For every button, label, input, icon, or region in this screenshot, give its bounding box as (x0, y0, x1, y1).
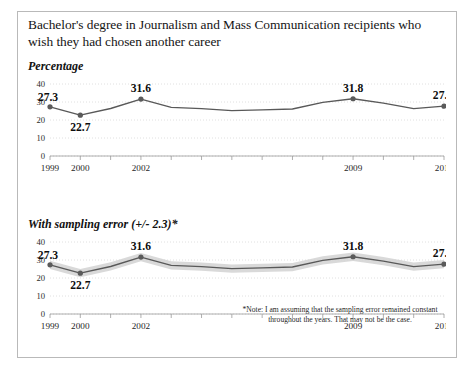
x-axis-tick-label: 2000 (71, 163, 90, 173)
data-point-marker (350, 254, 355, 259)
y-axis-tick-label: 40 (36, 237, 45, 247)
chart-page: Bachelor's degree in Journalism and Mass… (0, 0, 475, 379)
data-point-label: 27.7 (433, 89, 446, 102)
data-point-marker (47, 262, 52, 267)
y-axis-tick-label: 10 (36, 133, 45, 143)
x-axis-tick-label: 2012 (435, 163, 446, 173)
x-axis-tick-label: 2009 (344, 163, 363, 173)
x-axis-tick-label: 2002 (132, 163, 151, 173)
x-axis-tick-label: 2000 (71, 321, 90, 331)
data-point-label: 27.3 (38, 249, 58, 262)
x-axis-tick-label: 1999 (41, 163, 60, 173)
data-point-marker (441, 104, 446, 109)
data-point-label: 31.6 (131, 240, 151, 253)
data-point-label: 31.8 (343, 240, 363, 253)
x-axis-tick-label: 2002 (132, 321, 151, 331)
data-point-marker (78, 271, 83, 276)
panel-label-sampling-error: With sampling error (+/- 2.3)* (28, 217, 177, 232)
data-point-marker (350, 96, 355, 101)
panel-label-percentage: Percentage (28, 59, 83, 74)
y-axis-tick-label: 20 (36, 115, 45, 125)
footnote-note: *Note: I am assuming that the sampling e… (228, 305, 452, 324)
y-axis-tick-label: 20 (36, 273, 45, 283)
page-title: Bachelor's degree in Journalism and Mass… (28, 17, 446, 50)
x-axis-tick-label: 1999 (41, 321, 60, 331)
data-point-label: 22.7 (70, 121, 90, 134)
y-axis-tick-label: 40 (36, 79, 45, 89)
data-point-marker (138, 255, 143, 260)
data-point-marker (78, 113, 83, 118)
data-point-label: 27.3 (38, 91, 58, 104)
data-point-marker (138, 97, 143, 102)
data-line (50, 99, 444, 115)
y-axis-tick-label: 0 (41, 151, 45, 161)
sampling-error-band (50, 253, 444, 278)
data-point-label: 31.8 (343, 82, 363, 95)
y-axis-tick-label: 0 (41, 309, 45, 319)
data-point-marker (47, 104, 52, 109)
y-axis-tick-label: 10 (36, 291, 45, 301)
chart-percentage: 0102030401999200020022009201227.322.731.… (28, 78, 446, 178)
data-point-label: 31.6 (131, 82, 151, 95)
data-point-label: 22.7 (70, 279, 90, 292)
data-point-label: 27.7 (433, 247, 446, 260)
